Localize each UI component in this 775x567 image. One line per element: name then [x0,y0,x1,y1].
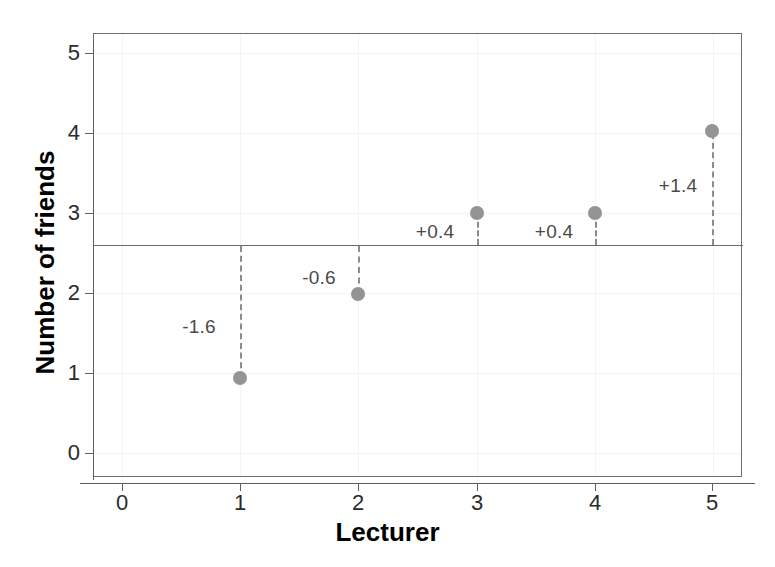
y-tick-label-1: 1 [68,360,80,386]
deviation-label-3: +0.4 [416,221,454,243]
data-point-2[interactable] [351,287,365,301]
deviation-line-1 [240,246,242,378]
y-tick-mark-0 [85,453,93,454]
data-point-3[interactable] [470,206,484,220]
y-tick-label-2: 2 [68,280,80,306]
y-tick-label-3: 3 [68,200,80,226]
gridline-y-5 [94,53,741,54]
y-tick-label-4: 4 [68,120,80,146]
gridline-y-3 [94,213,741,214]
gridline-x-3 [477,34,478,476]
mean-reference-line [93,245,743,246]
y-tick-mark-2 [85,293,93,294]
gridline-y-2 [94,293,741,294]
y-tick-mark-3 [85,213,93,214]
x-tick-label-3: 3 [471,490,483,516]
data-point-5[interactable] [705,124,719,138]
gridline-y-1 [94,373,741,374]
deviation-label-2: -0.6 [302,267,336,289]
y-axis-line [93,40,94,480]
y-tick-mark-1 [85,373,93,374]
gridline-y-4 [94,133,741,134]
x-axis-line [80,483,755,484]
gridline-x-4 [595,34,596,476]
gridline-x-0 [122,34,123,476]
deviation-label-4: +0.4 [535,221,573,243]
chart-figure: -1.6 -0.6 +0.4 +0.4 +1.4 0 1 2 3 4 5 0 1… [0,0,775,567]
y-tick-label-0: 0 [68,440,80,466]
y-tick-mark-5 [85,53,93,54]
x-tick-label-1: 1 [234,490,246,516]
y-tick-mark-4 [85,133,93,134]
data-point-4[interactable] [588,206,602,220]
gridline-x-5 [713,34,714,476]
x-tick-label-2: 2 [352,490,364,516]
data-point-1[interactable] [233,371,247,385]
deviation-label-1: -1.6 [182,316,216,338]
x-tick-label-5: 5 [706,490,718,516]
plot-panel [93,33,742,477]
x-axis-title: Lecturer [0,517,775,548]
x-tick-label-0: 0 [116,490,128,516]
x-tick-label-4: 4 [589,490,601,516]
deviation-line-5 [712,133,714,245]
deviation-label-5: +1.4 [659,175,697,197]
gridline-y-0 [94,453,741,454]
y-axis-title: Number of friends [30,113,61,413]
y-tick-label-5: 5 [68,40,80,66]
